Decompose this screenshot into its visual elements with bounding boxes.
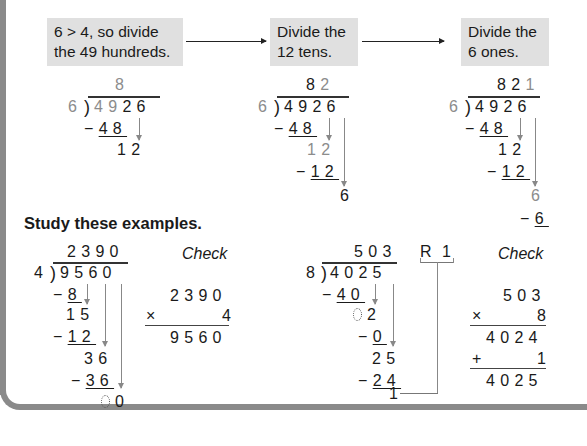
- division-bracket: ): [274, 98, 280, 116]
- sum-line: [470, 368, 546, 369]
- remainder-1: 12: [498, 141, 526, 159]
- step-2-line2: 12 tens.: [277, 42, 351, 62]
- dividend: 4926: [94, 98, 151, 116]
- subtract-3: −36: [71, 372, 114, 390]
- remainder-2: 6: [531, 187, 545, 205]
- product-line: [145, 325, 229, 326]
- product-line: [470, 325, 546, 326]
- subtract-line-2: −12: [487, 163, 530, 181]
- factor-2: 8: [537, 307, 551, 325]
- subtract-line-3: −6: [520, 210, 549, 228]
- factor-1: 2390: [170, 287, 227, 305]
- subtract-1: −40: [322, 286, 365, 304]
- division-bracket: ): [84, 98, 90, 116]
- bring-down-arrow-2: [105, 284, 106, 346]
- step-2-line1: Divide the: [277, 22, 351, 42]
- dividend: 4926: [475, 98, 532, 116]
- dividend: 4025: [330, 264, 387, 282]
- crossed-zero-icon: [353, 308, 362, 321]
- quotient: 503: [354, 243, 397, 261]
- remainder-label: R 1: [420, 243, 454, 261]
- bring-down-arrow-1: [87, 284, 88, 304]
- remainder-2: 6: [340, 187, 354, 205]
- partial-2: 25: [372, 350, 400, 368]
- subtract-line: −48: [84, 120, 127, 138]
- addend: 1: [537, 350, 551, 368]
- subtract-line-1: −48: [274, 120, 317, 138]
- step-box-2: Divide the 12 tens.: [270, 18, 358, 66]
- step-box-3: Divide the 6 ones.: [461, 18, 549, 66]
- subtract-1: −8: [53, 286, 82, 304]
- remainder: 12: [117, 141, 145, 159]
- division-bracket: ): [50, 264, 56, 282]
- divisor: 8: [306, 264, 320, 282]
- bring-down-arrow-1: [520, 118, 521, 140]
- remainder-1: 12: [307, 141, 335, 159]
- bring-down-arrow-2: [535, 118, 536, 186]
- divisor: 4: [34, 264, 48, 282]
- bring-down-arrow: [139, 118, 140, 140]
- crossed-zero-icon: [101, 395, 110, 408]
- quotient: 8: [115, 76, 129, 94]
- step-3-line1: Divide the: [468, 22, 542, 42]
- step-1-line2: the 49 hundreds.: [54, 42, 176, 62]
- bring-down-arrow-1: [329, 118, 330, 140]
- factor-1: 503: [503, 287, 546, 305]
- quotient: 821: [497, 76, 540, 94]
- divisor: 6: [258, 98, 272, 116]
- subtract-2: −0: [358, 328, 387, 346]
- divisor: 6: [68, 98, 82, 116]
- sum: 4025: [486, 372, 543, 390]
- arrow-step-2-to-3: [362, 41, 444, 42]
- multiply-operator: ×: [146, 307, 161, 325]
- product: 9560: [170, 329, 227, 347]
- division-bracket: ): [321, 264, 327, 282]
- partial-1: 2: [353, 306, 381, 324]
- product: 4024: [486, 329, 543, 347]
- bring-down-arrow-2: [344, 118, 345, 186]
- subtract-2: −12: [53, 328, 96, 346]
- arrow-step-1-to-2: [186, 41, 266, 42]
- dividend: 9560: [60, 264, 117, 282]
- subtract-line-2: −12: [296, 163, 339, 181]
- partial-2: 36: [84, 350, 112, 368]
- step-box-1: 6 > 4, so divide the 49 hundreds.: [47, 18, 183, 66]
- frame-left-border: [0, 0, 6, 395]
- bring-down-arrow-2: [393, 284, 394, 346]
- quotient: 2390: [67, 243, 124, 261]
- subtract-line-1: −48: [465, 120, 508, 138]
- partial-1: 15: [66, 306, 94, 324]
- dividend: 4926: [284, 98, 341, 116]
- factor-2: 4: [222, 307, 236, 325]
- divisor: 6: [449, 98, 463, 116]
- step-3-line2: 6 ones.: [468, 42, 542, 62]
- quotient: 82: [306, 76, 334, 94]
- check-label: Check: [498, 245, 543, 263]
- multiply-operator: ×: [472, 307, 487, 325]
- step-1-line1: 6 > 4, so divide: [54, 22, 176, 42]
- add-operator: +: [472, 350, 487, 368]
- division-bracket: ): [465, 98, 471, 116]
- final-remainder: 1: [389, 385, 403, 403]
- subtrahend: 48: [99, 120, 127, 137]
- check-label: Check: [182, 245, 227, 263]
- bring-down-arrow-3: [121, 284, 122, 388]
- final-remainder: 0: [101, 393, 129, 411]
- section-heading: Study these examples.: [24, 214, 202, 233]
- bring-down-arrow-1: [375, 284, 376, 304]
